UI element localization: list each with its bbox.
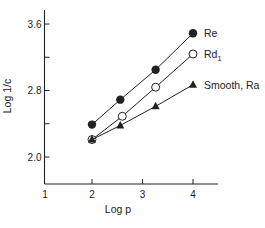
y-tick-label: 2.8 <box>28 85 42 96</box>
series-smooth-ra: Smooth, Ra <box>88 79 260 143</box>
series-label: Re <box>204 27 218 39</box>
series-line <box>92 33 193 124</box>
data-point-triangle <box>116 121 124 129</box>
data-point-filled-circle <box>151 66 159 74</box>
data-point-triangle <box>189 80 197 88</box>
x-tick-label: 2 <box>89 189 95 200</box>
y-axis-title: Log 1/c <box>1 79 13 113</box>
data-point-filled-circle <box>189 29 197 37</box>
series-layer: ReRd1Smooth, Ra <box>88 27 260 143</box>
x-axis-title: Log p <box>105 203 131 215</box>
series-line <box>92 54 193 140</box>
data-point-open-circle <box>189 50 197 58</box>
data-point-open-circle <box>118 112 126 120</box>
data-point-triangle <box>152 102 160 110</box>
data-point-open-circle <box>152 83 160 91</box>
series-rd: Rd1 <box>88 48 222 144</box>
x-tick-label: 1 <box>42 189 48 200</box>
x-tick-label: 4 <box>190 189 196 200</box>
series-re: Re <box>88 27 218 129</box>
y-tick-label: 3.6 <box>28 19 42 30</box>
chart: 2.02.83.61234 ReRd1Smooth, Ra Log p Log … <box>0 0 265 228</box>
series-label: Smooth, Ra <box>204 79 260 91</box>
series-line <box>92 85 193 140</box>
x-tick-label: 3 <box>140 189 146 200</box>
data-point-filled-circle <box>116 95 124 103</box>
series-label-subscript: 1 <box>217 54 221 63</box>
axes: 2.02.83.61234 <box>28 10 218 200</box>
series-label: Rd1 <box>204 48 222 63</box>
y-tick-label: 2.0 <box>28 152 42 163</box>
data-point-filled-circle <box>88 120 96 128</box>
